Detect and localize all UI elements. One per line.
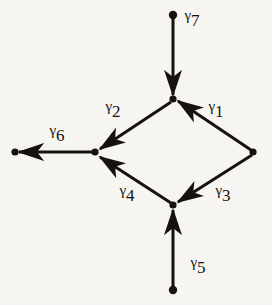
edge-label-gamma-6: γ6 <box>49 122 64 141</box>
edge-label-gamma-2: γ2 <box>105 98 120 117</box>
edge-label-gamma-1: γ1 <box>208 98 223 117</box>
gamma-subscript-5: 5 <box>197 258 206 277</box>
edge-lines <box>19 17 252 288</box>
edge-label-gamma-4: γ4 <box>119 182 134 201</box>
node-left-terminal-vertex <box>11 148 18 155</box>
node-bottom-vertex <box>169 201 176 208</box>
gamma-glyph-5: γ <box>190 254 197 270</box>
edge-label-gamma-5: γ5 <box>190 254 205 273</box>
node-top-vertex <box>169 95 176 102</box>
graph-svg <box>0 0 272 305</box>
gamma-subscript-4: 4 <box>126 186 135 205</box>
gamma-glyph-6: γ <box>49 122 56 138</box>
gamma-glyph-4: γ <box>119 182 126 198</box>
edge-label-gamma-3: γ3 <box>215 182 230 201</box>
gamma-glyph-7: γ <box>184 7 191 23</box>
gamma-subscript-1: 1 <box>215 102 224 121</box>
gamma-subscript-7: 7 <box>191 11 200 30</box>
node-left-vertex <box>91 148 98 155</box>
node-top-terminal-vertex <box>169 11 177 19</box>
node-right-vertex <box>249 148 256 155</box>
edge-label-gamma-7: γ7 <box>184 7 199 26</box>
node-bottom-terminal-vertex <box>169 286 177 294</box>
edge-gamma-4-line <box>100 157 171 203</box>
gamma-subscript-2: 2 <box>112 102 121 121</box>
gamma-glyph-2: γ <box>105 98 112 114</box>
gamma-glyph-3: γ <box>215 182 222 198</box>
gamma-subscript-3: 3 <box>222 186 231 205</box>
gamma-subscript-6: 6 <box>56 126 65 145</box>
diagram-canvas: γ1 γ2 γ3 γ4 γ5 γ6 γ7 <box>0 0 272 305</box>
gamma-glyph-1: γ <box>208 98 215 114</box>
